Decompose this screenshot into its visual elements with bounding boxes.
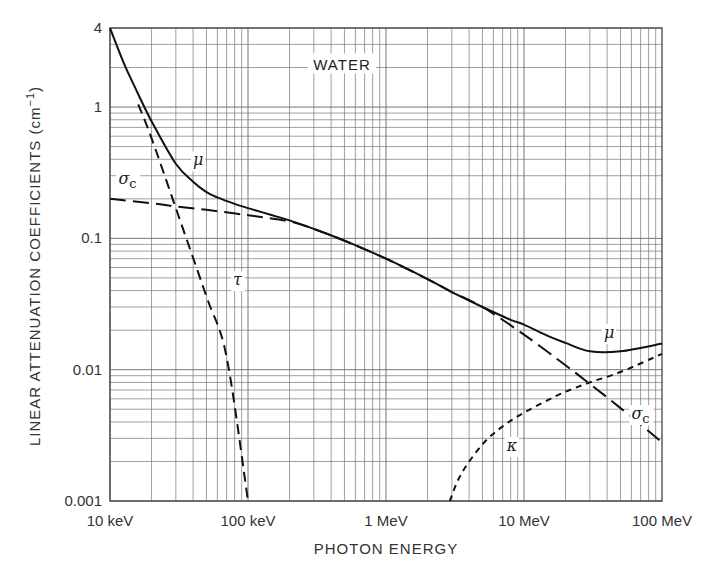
curve-label: τ xyxy=(233,270,243,289)
grid-lines xyxy=(110,28,662,501)
x-tick-label: 100 keV xyxy=(220,512,275,529)
x-axis-title: PHOTON ENERGY xyxy=(314,540,458,557)
x-tick-label: 100 MeV xyxy=(632,512,692,529)
attenuation-chart: WATERμσcτμσcκ 10 keV100 keV1 MeV10 MeV10… xyxy=(0,0,719,573)
y-axis-title: LINEAR ATTENUATION COEFFICIENTS (cm−1) xyxy=(24,86,43,446)
y-tick-labels: 410.10.010.001 xyxy=(64,19,102,509)
curve-labels: WATERμσcτμσcκ xyxy=(116,54,653,458)
y-tick-label: 1 xyxy=(94,98,102,115)
x-tick-label: 10 MeV xyxy=(498,512,550,529)
curve-label: μ xyxy=(604,323,614,342)
y-axis-title-close: ) xyxy=(26,86,43,92)
x-tick-label: 1 MeV xyxy=(364,512,407,529)
y-axis-title-exponent: −1 xyxy=(24,92,36,107)
x-tick-labels: 10 keV100 keV1 MeV10 MeV100 MeV xyxy=(87,512,692,529)
curve-label: μ xyxy=(193,150,203,169)
y-tick-label: 0.001 xyxy=(64,492,102,509)
curve-label: κ xyxy=(506,436,518,455)
x-tick-label: 10 keV xyxy=(87,512,134,529)
y-tick-label: 0.1 xyxy=(81,229,102,246)
y-tick-label: 4 xyxy=(94,19,102,36)
y-tick-label: 0.01 xyxy=(73,361,102,378)
y-axis-title-main: LINEAR ATTENUATION COEFFICIENTS (cm xyxy=(26,107,43,446)
chart-title: WATER xyxy=(313,56,371,73)
